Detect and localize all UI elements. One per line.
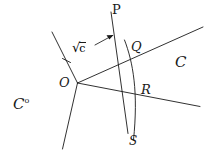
label-polar-cone-superscript: o xyxy=(24,96,29,105)
distance-arrow-head xyxy=(107,35,114,40)
arc-q-r-s xyxy=(125,40,136,140)
label-apex-o-text: O xyxy=(59,75,70,90)
geometry-figure xyxy=(0,0,211,155)
label-point-s: S xyxy=(129,135,137,147)
label-polar-cone: Co xyxy=(13,97,29,112)
label-distance-sqrt-c: √c xyxy=(72,40,86,56)
label-point-r: R xyxy=(141,83,151,96)
label-point-p: P xyxy=(112,3,121,16)
label-apex-o: O xyxy=(59,76,70,89)
ray-lower-right xyxy=(78,83,201,107)
ray-lower-left xyxy=(63,83,78,149)
label-point-q-text: Q xyxy=(131,39,142,54)
label-cone-c-text: C xyxy=(175,53,186,71)
label-cone-c: C xyxy=(175,55,186,70)
radicand-c: c xyxy=(79,42,86,56)
line-p-s xyxy=(111,12,128,134)
label-polar-cone-base: C xyxy=(13,95,24,113)
label-point-q: Q xyxy=(131,40,142,53)
label-point-p-text: P xyxy=(112,2,121,17)
label-point-r-text: R xyxy=(141,82,151,97)
label-point-s-text: S xyxy=(129,134,137,148)
